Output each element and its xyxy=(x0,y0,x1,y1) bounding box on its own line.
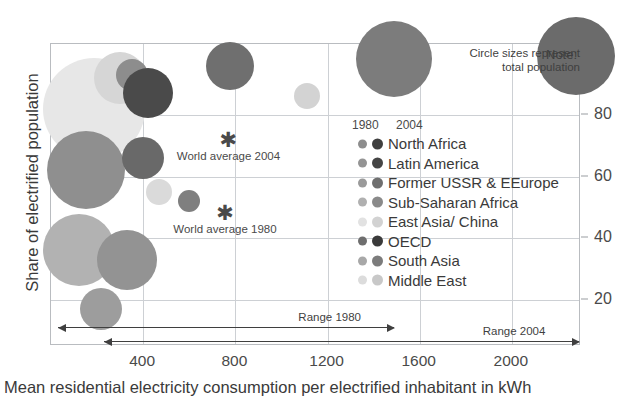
y-tick-mark-60 xyxy=(581,175,588,176)
y-tick-60: 60 xyxy=(594,167,612,185)
x-tick-1200: 1200 xyxy=(309,352,343,370)
legend-dot-1980 xyxy=(358,237,367,246)
range-2004-label: Range 2004 xyxy=(483,325,546,337)
legend-header-1980: 1980 xyxy=(352,118,379,132)
legend-label: Sub-Saharan Africa xyxy=(388,194,518,211)
legend-label: Middle East xyxy=(388,272,466,289)
bubble-middle-east-2004 xyxy=(294,83,320,109)
legend-swatches xyxy=(352,232,388,252)
range-2004-line xyxy=(104,341,579,342)
legend-swatches xyxy=(352,154,388,174)
y-tick-80: 80 xyxy=(594,105,612,123)
legend-dot-1980 xyxy=(358,139,367,148)
legend-item-sub-saharan-africa[interactable]: Sub-Saharan Africa xyxy=(352,193,559,213)
legend: 1980 2004 North AfricaLatin AmericaForme… xyxy=(352,118,559,290)
x-tick-1600: 1600 xyxy=(401,352,435,370)
legend-dot-1980 xyxy=(358,256,367,265)
legend-item-oecd[interactable]: OECD xyxy=(352,232,559,252)
bubble-south-asia-1980 xyxy=(97,230,157,290)
legend-swatches xyxy=(352,134,388,154)
bubble-middle-east-1980 xyxy=(146,179,172,205)
note-line-2: total population xyxy=(468,60,580,74)
legend-label: South Asia xyxy=(388,252,460,269)
note-line-1: Circle sizes represent xyxy=(468,46,580,60)
range-1980-line xyxy=(58,327,394,328)
legend-dot-1980 xyxy=(358,178,367,187)
x-tick-400: 400 xyxy=(129,352,155,370)
legend-label: North Africa xyxy=(388,135,466,152)
legend-dot-1980 xyxy=(358,159,367,168)
legend-dot-2004 xyxy=(372,177,383,188)
legend-dot-1980 xyxy=(358,276,367,285)
legend-item-middle-east[interactable]: Middle East xyxy=(352,271,559,291)
legend-dot-2004 xyxy=(372,275,383,286)
legend-label: East Asia/ China xyxy=(388,213,498,230)
legend-header-2004: 2004 xyxy=(396,118,423,132)
legend-item-latin-america[interactable]: Latin America xyxy=(352,154,559,174)
bubble-latin-america-1980 xyxy=(206,42,254,90)
x-axis-title: Mean residential electricity consumption… xyxy=(0,378,635,397)
bubble-sub-saharan-africa-2004 xyxy=(80,288,122,330)
range-1980-label: Range 1980 xyxy=(298,311,361,323)
gridline-vertical xyxy=(328,44,329,344)
legend-label: Former USSR & EEurope xyxy=(388,174,559,191)
legend-dot-1980 xyxy=(358,198,367,207)
bubble-chart: Share of electrified population ✱World a… xyxy=(0,0,635,404)
y-tick-20: 20 xyxy=(594,290,612,308)
legend-dot-2004 xyxy=(372,158,383,169)
range-1980-arrow-left xyxy=(58,324,66,332)
world-average-1980-marker: ✱ xyxy=(216,203,234,224)
x-tick-800: 800 xyxy=(221,352,247,370)
bubble-south-asia-2004 xyxy=(178,190,200,212)
legend-swatches xyxy=(352,271,388,291)
world-average-2004-marker: ✱ xyxy=(220,129,238,150)
legend-dot-2004 xyxy=(372,138,383,149)
legend-swatches xyxy=(352,173,388,193)
bubble-former-ussr-eeurope-2004 xyxy=(122,137,164,179)
legend-item-south-asia[interactable]: South Asia xyxy=(352,251,559,271)
legend-dot-2004 xyxy=(372,216,383,227)
legend-label: Latin America xyxy=(388,155,479,172)
bubble-former-ussr-eeurope-1980 xyxy=(47,131,125,209)
bubble-north-africa-2004 xyxy=(123,68,173,118)
y-tick-mark-40 xyxy=(581,237,588,238)
legend-item-north-africa[interactable]: North Africa xyxy=(352,134,559,154)
y-axis-title: Share of electrified population xyxy=(23,58,42,308)
legend-item-former-ussr-eeurope[interactable]: Former USSR & EEurope xyxy=(352,173,559,193)
range-2004-arrow-right xyxy=(572,338,580,346)
world-average-2004-label: World average 2004 xyxy=(177,150,280,162)
y-tick-mark-20 xyxy=(581,298,588,299)
legend-header: 1980 2004 xyxy=(352,118,559,134)
legend-swatches xyxy=(352,193,388,213)
y-tick-mark-80 xyxy=(581,113,588,114)
legend-dot-2004 xyxy=(372,197,383,208)
range-1980-arrow-right xyxy=(387,324,395,332)
legend-dot-1980 xyxy=(358,217,367,226)
legend-swatches xyxy=(352,251,388,271)
legend-label: OECD xyxy=(388,233,431,250)
bubble-oecd-1980 xyxy=(356,21,432,97)
y-tick-40: 40 xyxy=(594,228,612,246)
legend-dot-2004 xyxy=(372,236,383,247)
legend-swatches xyxy=(352,212,388,232)
legend-dot-2004 xyxy=(372,255,383,266)
legend-item-east-asia-china[interactable]: East Asia/ China xyxy=(352,212,559,232)
note-box: Circle sizes represent total population xyxy=(468,46,580,75)
gridline-horizontal xyxy=(51,300,579,301)
range-2004-arrow-left xyxy=(104,338,112,346)
world-average-1980-label: World average 1980 xyxy=(173,223,276,235)
x-tick-2000: 2000 xyxy=(494,352,528,370)
gridline-vertical xyxy=(235,44,236,344)
